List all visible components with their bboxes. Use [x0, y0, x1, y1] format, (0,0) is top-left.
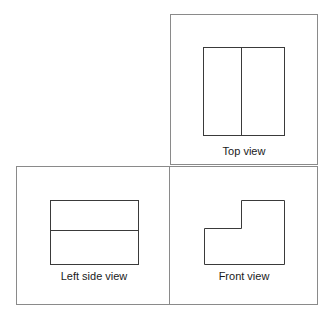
top-view-frame [171, 15, 318, 165]
left-side-view-shape [51, 201, 139, 265]
top-view-shape [204, 48, 285, 136]
top-view-label: Top view [204, 145, 284, 157]
front-view-shape [205, 201, 285, 265]
front-view-label: Front view [204, 270, 284, 282]
front-view-frame [170, 167, 318, 305]
left-side-view-frame [17, 167, 170, 305]
orthographic-views-diagram [0, 0, 332, 315]
left-side-view-label: Left side view [44, 270, 144, 282]
